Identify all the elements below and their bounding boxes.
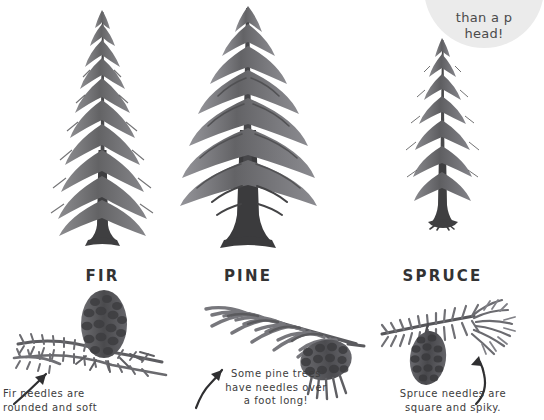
detail-column-spruce: Spruce needles are square and spiky.	[372, 282, 528, 420]
detail-column-fir: Fir needles are rounded and soft	[0, 282, 180, 420]
caption-spruce: Spruce needles are square and spiky.	[378, 387, 528, 414]
fact-badge: than a p head!	[424, 0, 544, 48]
caption-pine: Some pine trees have needles over a foot…	[188, 367, 364, 408]
tree-column-fir: FIR	[30, 0, 175, 285]
caption-fir: Fir needles are rounded and soft	[3, 387, 173, 414]
fact-badge-text: than a p head!	[424, 10, 544, 42]
detail-column-pine: Some pine trees have needles over a foot…	[180, 282, 372, 420]
pine-tree-illustration	[172, 0, 324, 257]
tree-column-pine: PINE	[172, 0, 324, 285]
fir-tree-illustration	[30, 0, 175, 257]
tree-illustration-row: FIR	[0, 0, 528, 285]
detail-illustration-row: Fir needles are rounded and soft	[0, 282, 528, 420]
